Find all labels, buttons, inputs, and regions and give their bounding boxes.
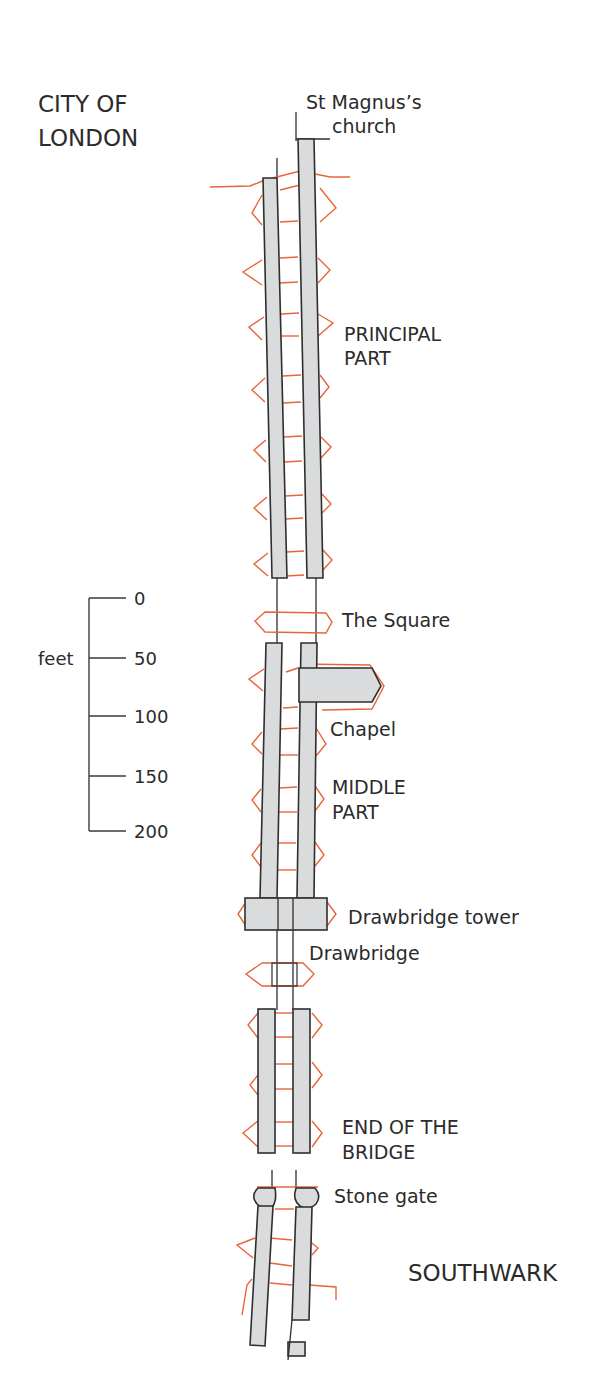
middle-part-label-line1: MIDDLE bbox=[332, 775, 406, 799]
middle-part-label-line2: PART bbox=[332, 800, 379, 824]
scale-tick-200: 200 bbox=[134, 820, 168, 844]
south-east-row bbox=[292, 1207, 312, 1320]
principal-part-label-line1: PRINCIPAL bbox=[344, 322, 441, 346]
scale-unit-label: feet bbox=[38, 647, 74, 671]
south-west-row bbox=[250, 1206, 273, 1346]
scale-tick-50: 50 bbox=[134, 647, 157, 671]
the-square-label: The Square bbox=[342, 608, 450, 632]
south-end-block bbox=[288, 1342, 305, 1356]
drawbridge-tower-label: Drawbridge tower bbox=[348, 905, 519, 929]
drawbridge-label: Drawbridge bbox=[309, 941, 420, 965]
bridge-plan-diagram bbox=[0, 0, 595, 1396]
scale-bar bbox=[89, 598, 126, 831]
end-of-bridge-label-line1: END OF THE bbox=[342, 1115, 459, 1139]
stone-gate-west bbox=[254, 1188, 276, 1208]
principal-east-row bbox=[298, 139, 323, 578]
principal-west-row bbox=[263, 178, 287, 578]
city-of-london-label-line2: LONDON bbox=[38, 122, 138, 154]
st-magnus-church-label-line2: church bbox=[332, 114, 396, 138]
chapel bbox=[299, 668, 381, 702]
middle-west-row bbox=[260, 643, 282, 898]
southwark-label: SOUTHWARK bbox=[408, 1257, 557, 1289]
city-of-london-label-line1: CITY OF bbox=[38, 88, 128, 120]
end-east-row bbox=[293, 1009, 310, 1153]
st-magnus-church-label-line1: St Magnus’s bbox=[306, 90, 422, 114]
scale-tick-100: 100 bbox=[134, 705, 168, 729]
scale-tick-150: 150 bbox=[134, 765, 168, 789]
stone-gate-label: Stone gate bbox=[334, 1184, 438, 1208]
chapel-label: Chapel bbox=[330, 717, 396, 741]
stone-gate-east bbox=[295, 1188, 319, 1208]
drawbridge-tower bbox=[245, 898, 327, 930]
principal-part-label-line2: PART bbox=[344, 346, 391, 370]
end-west-row bbox=[258, 1009, 275, 1153]
end-of-bridge-label-line2: BRIDGE bbox=[342, 1140, 415, 1164]
scale-tick-0: 0 bbox=[134, 587, 145, 611]
